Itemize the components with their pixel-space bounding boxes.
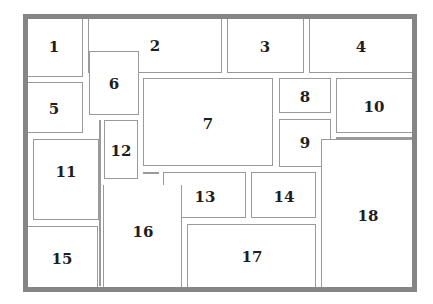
region-12-label: 12	[111, 142, 132, 160]
region-13-label: 13	[195, 188, 216, 206]
region-6-label: 6	[109, 75, 119, 93]
region-17-label: 17	[242, 248, 263, 266]
region-16-label: 16	[133, 223, 154, 241]
divider-line	[99, 120, 101, 286]
divider-line	[143, 172, 159, 174]
region-14-label: 14	[274, 188, 295, 206]
region-8-label: 8	[300, 88, 310, 106]
region-11-label: 11	[56, 163, 77, 181]
region-18-label: 18	[358, 207, 379, 225]
region-5-label: 5	[49, 100, 59, 118]
divider-line	[336, 137, 412, 139]
region-7-label: 7	[203, 115, 213, 133]
region-10-label: 10	[364, 98, 385, 116]
region-9-label: 9	[300, 134, 310, 152]
partition-diagram: 1 2 3 4 5 6 7 8 9 10 11 12 13 14 15 16 1…	[0, 0, 433, 304]
region-3-label: 3	[260, 38, 270, 56]
region-2-label: 2	[150, 37, 160, 55]
region-4-label: 4	[356, 38, 366, 56]
region-15-label: 15	[52, 250, 73, 268]
region-1-label: 1	[49, 38, 59, 56]
